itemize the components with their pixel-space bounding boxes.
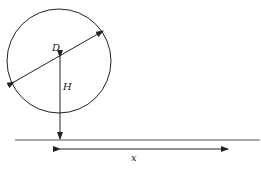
- distance-label: x: [131, 152, 137, 163]
- diameter-arrow: [14, 31, 103, 82]
- height-label: H: [62, 81, 72, 92]
- diagram-canvas: D H x: [0, 0, 261, 173]
- diameter-label: D: [51, 42, 60, 53]
- circle: [7, 9, 111, 113]
